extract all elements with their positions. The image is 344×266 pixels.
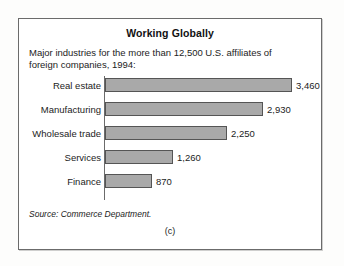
source-note: Source: Commerce Department. (29, 209, 151, 219)
bar-value-label: 2,250 (231, 127, 255, 140)
bar-category-label: Wholesale trade (19, 127, 101, 140)
bar-rect (105, 102, 263, 116)
bar-row: Services 1,260 (19, 148, 321, 172)
bar-row: Wholesale trade 2,250 (19, 124, 321, 148)
bar-rect (105, 150, 173, 164)
bar-rect (105, 78, 292, 92)
bar-value-label: 2,930 (267, 103, 291, 116)
bar-value-label: 870 (156, 175, 172, 188)
figure-box: Working Globally Major industries for th… (18, 18, 322, 250)
chart-subtitle: Major industries for the more than 12,50… (29, 47, 301, 70)
bar-category-label: Real estate (19, 79, 101, 92)
bar-row: Finance 870 (19, 172, 321, 196)
bar-row: Real estate 3,460 (19, 76, 321, 100)
figure-caption: (c) (19, 226, 321, 236)
bar-value-label: 3,460 (296, 79, 320, 92)
bar-category-label: Finance (19, 175, 101, 188)
bar-row: Manufacturing 2,930 (19, 100, 321, 124)
bar-category-label: Services (19, 151, 101, 164)
bar-value-label: 1,260 (177, 151, 201, 164)
page-title: Working Globally (19, 27, 321, 39)
bar-rect (105, 174, 152, 188)
bar-category-label: Manufacturing (19, 103, 101, 116)
bar-rect (105, 126, 227, 140)
plot-area: Real estate 3,460 Manufacturing 2,930 Wh… (19, 76, 321, 200)
